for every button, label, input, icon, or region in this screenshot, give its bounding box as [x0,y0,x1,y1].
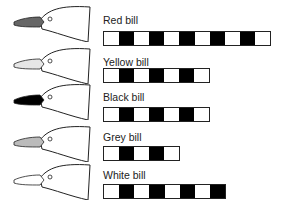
bar-white-bill [103,184,226,199]
gull-head-black-bill-icon [0,80,100,120]
label-red-bill: Red bill [103,14,138,26]
gull-head-red-bill-icon [0,2,100,42]
label-yellow-bill: Yellow bill [103,56,149,68]
bar-grey-bill [103,146,180,161]
label-white-bill: White bill [103,169,146,181]
gull-head-yellow-bill-icon [0,44,100,84]
gull-head-grey-bill-icon [0,122,100,162]
bar-red-bill [103,31,271,46]
bar-black-bill [103,107,210,122]
label-black-bill: Black bill [103,91,144,103]
bar-yellow-bill [103,68,210,83]
label-grey-bill: Grey bill [103,131,142,143]
gull-head-white-bill-icon [0,160,100,200]
